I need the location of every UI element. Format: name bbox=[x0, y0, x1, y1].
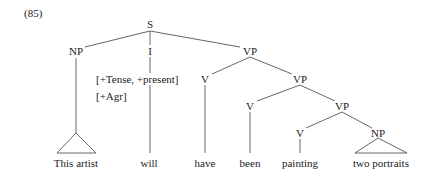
example-number: (85) bbox=[24, 7, 42, 19]
node-vp-1: VP bbox=[243, 45, 257, 57]
node-i: I bbox=[148, 45, 152, 57]
i-features-agr: [+Agr] bbox=[96, 90, 127, 102]
leaf-have: have bbox=[195, 157, 216, 169]
tree-branches bbox=[0, 0, 433, 180]
node-vp-3: VP bbox=[335, 100, 349, 112]
node-v-3: V bbox=[296, 127, 304, 139]
leaf-will: will bbox=[140, 157, 157, 169]
leaf-two-portraits: two portraits bbox=[353, 157, 409, 169]
node-v-2: V bbox=[246, 100, 254, 112]
node-np-subject: NP bbox=[69, 45, 83, 57]
node-s: S bbox=[147, 18, 153, 30]
leaf-painting: painting bbox=[282, 157, 318, 169]
node-np-object: NP bbox=[371, 127, 385, 139]
node-vp-2: VP bbox=[293, 73, 307, 85]
leaf-been: been bbox=[240, 157, 261, 169]
node-v-1: V bbox=[201, 73, 209, 85]
leaf-this-artist: This artist bbox=[54, 157, 98, 169]
i-features-tense: [+Tense, +present] bbox=[96, 73, 179, 85]
